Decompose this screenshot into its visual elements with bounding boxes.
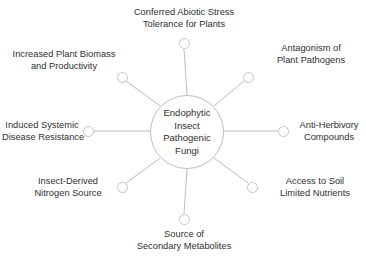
node-dot-conferred-abiotic-stress-tolerance[interactable] [179,38,190,49]
label-conferred-abiotic-stress-tolerance: Conferred Abiotic Stress Tolerance for P… [109,6,259,30]
hub-label-line-4: Fungi [175,145,199,158]
spoke-line-bottom-left [126,158,160,183]
label-line-1: Conferred Abiotic Stress [109,6,259,18]
spoke-line-bottom-right [214,158,248,183]
node-dot-access-to-soil-limited-nutrients[interactable] [247,182,258,193]
label-increased-plant-biomass-productivity: Increased Plant Biomass and Productivity [8,48,120,72]
label-anti-herbivory-compounds: Anti-Herbivory Compounds [293,119,365,143]
label-line-2: Compounds [293,131,365,143]
node-dot-anti-herbivory-compounds[interactable] [278,126,289,137]
label-line-1: Anti-Herbivory [293,119,365,131]
spoke-line-top-right [214,81,244,106]
label-line-1: Source of [109,228,259,240]
label-line-2: Limited Nutrients [265,187,365,199]
label-insect-derived-nitrogen-source: Insect-Derived Nitrogen Source [24,175,112,199]
radial-diagram: Endophytic Insect Pathogenic Fungi Confe… [0,0,366,259]
node-dot-increased-plant-biomass-productivity[interactable] [117,72,128,83]
label-line-1: Access to Soil [265,175,365,187]
label-access-to-soil-limited-nutrients: Access to Soil Limited Nutrients [265,175,365,199]
label-line-2: Nitrogen Source [24,187,112,199]
label-antagonism-of-plant-pathogens: Antagonism of Plant Pathogens [262,42,360,66]
spoke-line-top-left [126,81,160,106]
node-dot-antagonism-of-plant-pathogens[interactable] [243,72,254,83]
node-dot-induced-systemic-disease-resistance[interactable] [83,126,94,137]
hub-label-line-2: Insect [174,120,199,133]
label-line-1: Increased Plant Biomass [8,48,120,60]
label-line-2: and Productivity [8,60,120,72]
hub-label-line-1: Endophytic [163,107,210,120]
label-line-1: Insect-Derived [24,175,112,187]
label-line-2: Plant Pathogens [262,54,360,66]
label-line-2: Secondary Metabolites [109,240,259,252]
label-induced-systemic-disease-resistance: Induced Systemic Disease Resistance [2,119,82,143]
label-line-2: Disease Resistance [2,131,82,143]
hub-node[interactable]: Endophytic Insect Pathogenic Fungi [150,95,224,169]
spoke-line-bottom [184,169,187,214]
label-source-of-secondary-metabolites: Source of Secondary Metabolites [109,228,259,252]
node-dot-insect-derived-nitrogen-source[interactable] [117,182,128,193]
node-dot-source-of-secondary-metabolites[interactable] [179,214,190,225]
spoke-line-top [184,49,187,95]
label-line-1: Antagonism of [262,42,360,54]
label-line-1: Induced Systemic [2,119,82,131]
hub-label-line-3: Pathogenic [163,132,211,145]
label-line-2: Tolerance for Plants [109,18,259,30]
